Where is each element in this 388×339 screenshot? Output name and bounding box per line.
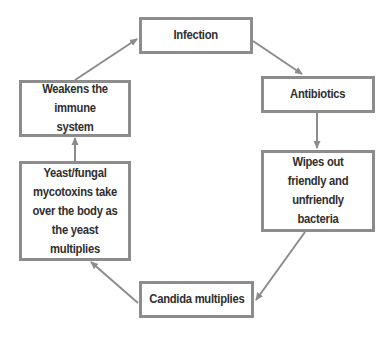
node-wipes-out-bacteria: Wipes out friendly and unfriendly bacter… (261, 150, 375, 232)
arrow-weakens-to-infection (75, 39, 137, 80)
node-yeast-mycotoxins: Yeast/fungal mycotoxins take over the bo… (19, 161, 131, 261)
arrow-wipes-to-candida (256, 232, 305, 300)
node-label: Yeast/fungal mycotoxins take over the bo… (29, 164, 121, 259)
node-infection: Infection (139, 17, 253, 54)
node-label: Wipes out friendly and unfriendly bacter… (273, 153, 363, 229)
arrow-infection-to-antibiotics (253, 41, 302, 74)
arrow-candida-to-yeast (91, 262, 138, 303)
node-label: Candida multiplies (149, 290, 244, 309)
node-antibiotics: Antibiotics (261, 76, 375, 113)
node-label: Infection (174, 26, 218, 45)
node-label: Antibiotics (290, 85, 345, 104)
node-weakens-immune-system: Weakens the immune system (19, 80, 131, 137)
node-label: Weakens the immune system (35, 80, 116, 137)
node-candida-multiplies: Candida multiplies (139, 281, 254, 318)
